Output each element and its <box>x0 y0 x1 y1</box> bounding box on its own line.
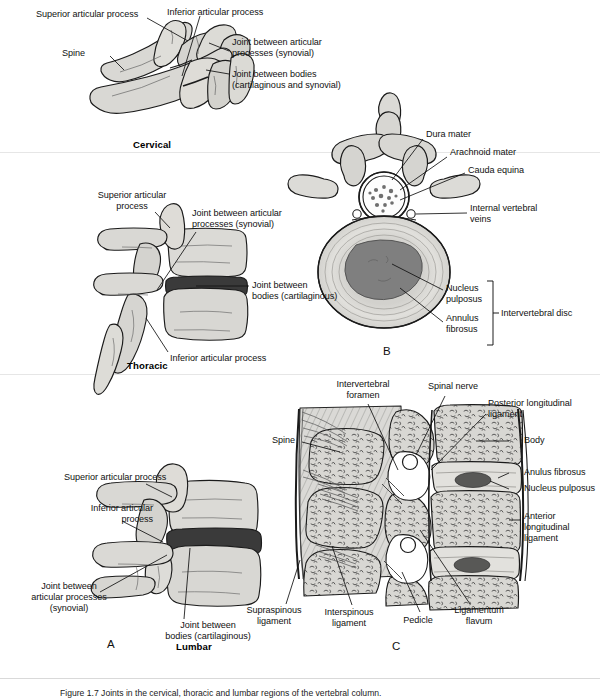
label-intervertebral-foramen: Intervertebral foramen <box>318 379 408 401</box>
panel-letter-a: A <box>107 638 115 650</box>
label-dura-mater: Dura mater <box>426 129 471 140</box>
label-annulus-fibrosus-panel-b: Annulus fibrosus <box>446 313 479 335</box>
label-inferior-articular-process-thoracic: Inferior articular process <box>170 353 266 364</box>
panel-letter-c: C <box>392 640 400 652</box>
label-superior-articular-process-cervical: Superior articular process <box>36 9 138 20</box>
figure-canvas: Superior articular process Inferior arti… <box>0 0 600 699</box>
label-ligamentum-flavum: Ligamentum flavum <box>440 605 518 627</box>
label-spine-cervical: Spine <box>62 48 85 59</box>
label-joint-bodies-cervical: Joint between bodies (cartilaginous and … <box>232 69 341 91</box>
label-nucleus-pulposus-panel-c: Nucleus pulposus <box>524 483 595 494</box>
label-interspinous-ligament: Interspinous ligament <box>309 607 389 629</box>
label-inferior-articular-process-lumbar: Inferior articular process <box>43 503 153 525</box>
label-supraspinous-ligament: Supraspinous ligament <box>232 605 316 627</box>
label-joint-articular-processes-thoracic: Joint between articular processes (synov… <box>192 208 282 230</box>
label-pedicle: Pedicle <box>392 615 444 626</box>
label-joint-bodies-thoracic: Joint between bodies (cartilaginous) <box>252 280 337 302</box>
label-joint-articular-processes-cervical: Joint between articular processes (synov… <box>232 37 322 59</box>
label-anulus-fibrosus-panel-c: Anulus fibrosus <box>524 467 585 478</box>
region-label-thoracic: Thoracic <box>127 360 168 371</box>
panel-letter-b: B <box>383 345 391 357</box>
label-arachnoid-mater: Arachnoid mater <box>450 147 516 158</box>
label-joint-articular-processes-lumbar: Joint between articular processes (synov… <box>8 581 130 615</box>
label-anterior-longitudinal-ligament: Anterior longitudinal ligament <box>524 511 569 545</box>
label-spine-panel-c: Spine <box>272 435 295 446</box>
figure-caption: Figure 1.7 Joints in the cervical, thora… <box>60 688 552 699</box>
label-spinal-nerve: Spinal nerve <box>428 381 478 392</box>
label-superior-articular-process-lumbar: Superior articular process <box>64 472 166 483</box>
cervical-vertebrae-drawing <box>90 21 254 114</box>
label-inferior-articular-process-cervical: Inferior articular process <box>167 7 263 18</box>
label-nucleus-pulposus-panel-b: Nucleus pulposus <box>446 283 482 305</box>
panel-c-sagittal-section <box>296 405 528 610</box>
label-body-panel-c: Body <box>524 435 545 446</box>
thoracic-vertebrae-drawing <box>94 204 248 395</box>
region-label-cervical: Cervical <box>133 139 171 150</box>
label-internal-vertebral-veins: Internal vertebral veins <box>470 203 537 225</box>
label-intervertebral-disc: Intervertebral disc <box>501 308 572 319</box>
label-posterior-longitudinal-ligament: Posterior longitudinal ligament <box>488 398 572 420</box>
label-superior-articular-process-thoracic: Superior articular process <box>77 190 187 212</box>
region-label-lumbar: Lumbar <box>176 641 212 652</box>
label-cauda-equina: Cauda equina <box>468 165 524 176</box>
